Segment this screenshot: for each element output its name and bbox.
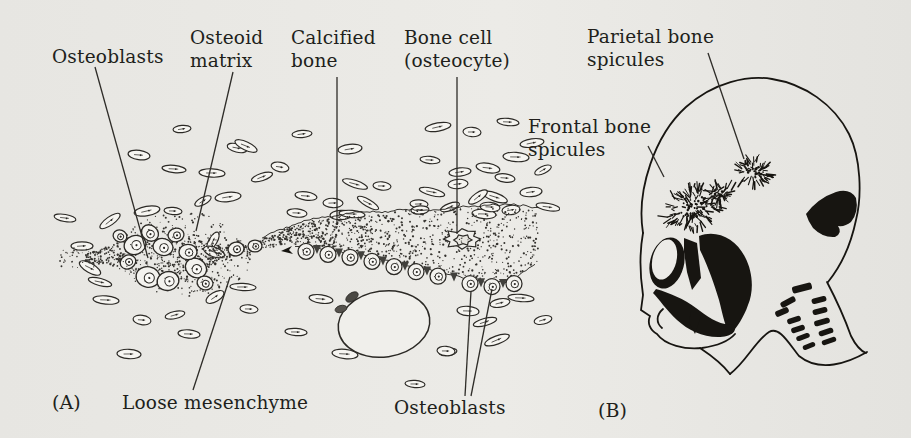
band-arrow-mark xyxy=(281,246,293,254)
osteoblast-cluster xyxy=(111,221,262,293)
label-bone-cell-osteocyte: Bone cell (osteocyte) xyxy=(404,26,510,72)
leader-lines-b xyxy=(648,53,744,177)
label-calcified-bone: Calcified bone xyxy=(291,26,376,72)
label-osteoid-matrix: Osteoid matrix xyxy=(190,26,263,72)
vertebrae xyxy=(774,282,837,351)
occipital-patch xyxy=(806,191,857,237)
frontal-bone-spicules xyxy=(650,166,740,247)
figure-intramembranous-ossification: Osteoblasts Osteoid matrix Calcified bon… xyxy=(0,0,911,438)
label-osteoblasts-bottom: Osteoblasts xyxy=(394,396,506,419)
label-frontal-bone-spicules: Frontal bone spicules xyxy=(528,115,651,161)
label-osteoblasts-top: Osteoblasts xyxy=(52,45,164,68)
panel-a-letter: (A) xyxy=(52,391,81,413)
label-parietal-bone-spicules: Parietal bone spicules xyxy=(587,25,714,71)
label-loose-mesenchyme: Loose mesenchyme xyxy=(122,391,308,414)
panel-b-letter: (B) xyxy=(598,399,627,421)
ossification-patches xyxy=(644,191,857,337)
parietal-bone-spicules xyxy=(735,155,776,190)
